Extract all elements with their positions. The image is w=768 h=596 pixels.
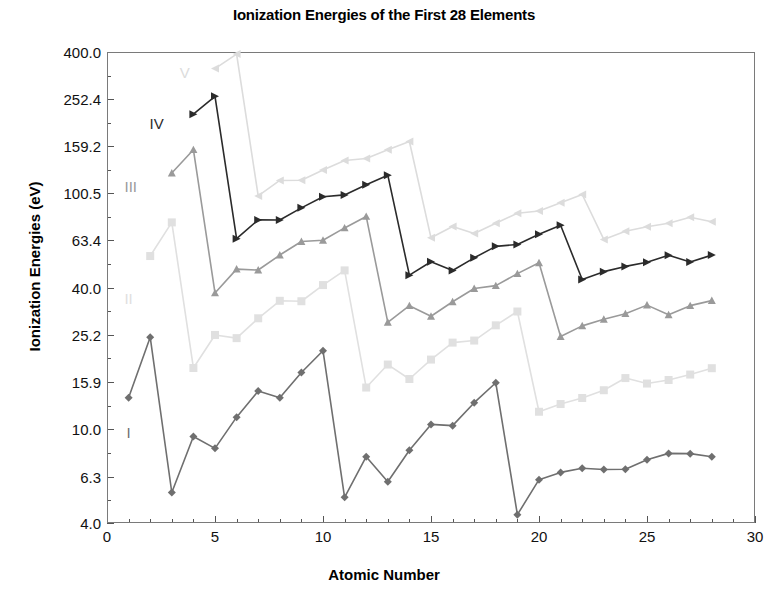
- series-line-III: [172, 150, 712, 337]
- y-tick-label: 252.4: [15, 91, 101, 108]
- ionization-energy-chart: Ionization Energies of the First 28 Elem…: [0, 0, 768, 596]
- data-point: [513, 209, 521, 217]
- data-point: [405, 375, 413, 383]
- data-point: [492, 242, 500, 250]
- data-point: [643, 223, 651, 231]
- series-I: [125, 333, 716, 518]
- x-tick-label: 10: [303, 528, 343, 545]
- y-tick-label: 25.2: [15, 326, 101, 343]
- data-point: [621, 465, 629, 473]
- data-point: [513, 511, 521, 519]
- data-point: [384, 146, 392, 154]
- y-tick: [107, 523, 114, 524]
- data-point: [643, 380, 651, 388]
- x-tick-label: 25: [627, 528, 667, 545]
- series-layer: [107, 52, 755, 523]
- data-point: [513, 240, 521, 248]
- series-label-II: II: [124, 290, 132, 307]
- x-tick-label: 0: [87, 528, 127, 545]
- plot-area: IIIIIIIVV: [107, 52, 755, 523]
- y-tick-label: 159.2: [15, 138, 101, 155]
- y-axis-label: Ionization Energies (eV): [26, 137, 43, 397]
- data-point: [578, 464, 586, 472]
- data-point: [189, 432, 197, 440]
- data-point: [341, 493, 349, 501]
- data-point: [513, 270, 521, 277]
- data-point: [319, 166, 327, 174]
- x-tick-label: 15: [411, 528, 451, 545]
- data-point: [384, 361, 392, 369]
- x-tick-label: 5: [195, 528, 235, 545]
- data-point: [254, 216, 262, 224]
- data-point: [189, 146, 197, 153]
- data-point: [643, 258, 651, 266]
- data-point: [276, 297, 284, 305]
- data-point: [492, 219, 500, 227]
- data-point: [665, 251, 673, 259]
- y-tick-label: 100.5: [15, 185, 101, 202]
- y-tick-label: 10.0: [15, 421, 101, 438]
- series-label-IV: IV: [150, 114, 164, 131]
- data-point: [449, 298, 457, 305]
- data-point: [621, 262, 629, 270]
- x-tick: [755, 516, 756, 523]
- data-point: [492, 321, 500, 329]
- data-point: [362, 384, 370, 392]
- series-line-V: [215, 54, 712, 239]
- data-point: [578, 191, 586, 199]
- data-point: [341, 157, 349, 165]
- data-point: [535, 476, 543, 484]
- data-point: [362, 212, 370, 219]
- series-label-III: III: [124, 177, 137, 194]
- data-point: [449, 267, 457, 275]
- data-point: [211, 331, 219, 339]
- data-point: [513, 308, 521, 316]
- data-point: [600, 235, 608, 243]
- series-V: [211, 50, 716, 243]
- data-point: [621, 374, 629, 382]
- data-point: [535, 207, 543, 215]
- data-point: [297, 176, 305, 184]
- y-tick-label: 400.0: [15, 44, 101, 61]
- data-point: [125, 394, 133, 402]
- data-point: [686, 258, 694, 266]
- data-point: [427, 312, 435, 319]
- data-point: [643, 456, 651, 464]
- data-point: [665, 376, 673, 384]
- data-point: [557, 400, 565, 408]
- data-point: [319, 193, 327, 201]
- data-point: [254, 314, 262, 322]
- data-point: [168, 218, 176, 226]
- data-point: [449, 339, 457, 347]
- data-point: [708, 453, 716, 461]
- data-point: [341, 224, 349, 231]
- data-point: [427, 356, 435, 364]
- data-point: [557, 333, 565, 340]
- x-tick-label: 30: [735, 528, 768, 545]
- data-point: [168, 488, 176, 496]
- y-tick-label: 63.4: [15, 232, 101, 249]
- series-III: [168, 146, 716, 340]
- data-point: [535, 259, 543, 266]
- y-tick-label: 6.3: [15, 468, 101, 485]
- data-point: [470, 230, 478, 238]
- series-label-I: I: [127, 424, 131, 441]
- data-point: [578, 394, 586, 402]
- data-point: [146, 252, 154, 260]
- series-label-V: V: [180, 63, 190, 80]
- data-point: [470, 254, 478, 262]
- data-point: [686, 371, 694, 379]
- data-point: [362, 181, 370, 189]
- data-point: [686, 450, 694, 458]
- data-point: [600, 465, 608, 473]
- data-point: [643, 301, 651, 308]
- data-point: [297, 297, 305, 305]
- data-point: [146, 333, 154, 341]
- data-point: [708, 218, 716, 226]
- data-point: [600, 386, 608, 394]
- data-point: [341, 266, 349, 274]
- data-point: [557, 221, 565, 229]
- data-point: [621, 227, 629, 235]
- data-point: [557, 468, 565, 476]
- data-point: [276, 216, 284, 224]
